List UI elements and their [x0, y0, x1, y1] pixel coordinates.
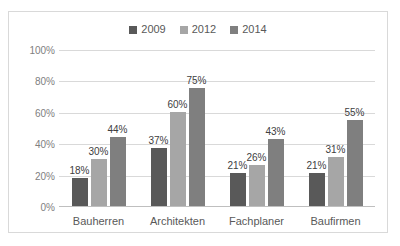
bar-architekten-2009[interactable] [151, 148, 167, 206]
chart-container: 200920122014 100%80%60%40%20%0% 18%30%44… [8, 11, 388, 233]
bar-slot: 44% [110, 50, 126, 206]
bar-bauherren-2012[interactable] [91, 159, 107, 206]
bar-group-baufirmen: 21%31%55% [296, 50, 375, 206]
bar-value-label: 43% [265, 127, 285, 137]
bar-groups: 18%30%44%37%60%75%21%26%43%21%31%55% [59, 50, 375, 206]
x-axis: BauherrenArchitektenFachplanerBaufirmen [59, 215, 375, 227]
y-axis-tick-label: 60% [35, 107, 55, 118]
y-axis: 100%80%60%40%20%0% [13, 50, 55, 207]
y-axis-tick-label: 40% [35, 139, 55, 150]
bar-value-label: 75% [186, 76, 206, 86]
bar-slot: 18% [72, 50, 88, 206]
bar-value-label: 30% [88, 147, 108, 157]
y-axis-tick-label: 100% [29, 45, 55, 56]
bar-value-label: 31% [325, 145, 345, 155]
chart-plot-wrapper: 100%80%60%40%20%0% 18%30%44%37%60%75%21%… [9, 12, 387, 232]
bar-slot: 75% [189, 50, 205, 206]
bar-bauherren-2009[interactable] [72, 178, 88, 206]
bar-value-label: 44% [107, 125, 127, 135]
plot-area: 18%30%44%37%60%75%21%26%43%21%31%55% [59, 50, 375, 207]
bar-baufirmen-2014[interactable] [347, 120, 363, 206]
x-axis-tick-fachplaner: Fachplaner [217, 215, 296, 227]
bar-fachplaner-2009[interactable] [230, 173, 246, 206]
bar-slot: 30% [91, 50, 107, 206]
bar-slot: 37% [151, 50, 167, 206]
x-axis-tick-baufirmen: Baufirmen [296, 215, 375, 227]
bar-slot: 31% [328, 50, 344, 206]
bar-slot: 26% [249, 50, 265, 206]
bar-value-label: 21% [306, 161, 326, 171]
bar-baufirmen-2009[interactable] [309, 173, 325, 206]
bar-baufirmen-2012[interactable] [328, 157, 344, 206]
axis-baseline [59, 206, 375, 207]
bar-slot: 21% [309, 50, 325, 206]
y-axis-tick-label: 0% [41, 202, 55, 213]
bar-value-label: 18% [69, 166, 89, 176]
bar-value-label: 55% [344, 108, 364, 118]
bar-group-architekten: 37%60%75% [138, 50, 217, 206]
bar-value-label: 60% [167, 100, 187, 110]
bar-group-fachplaner: 21%26%43% [217, 50, 296, 206]
bar-slot: 43% [268, 50, 284, 206]
bar-slot: 21% [230, 50, 246, 206]
bar-slot: 60% [170, 50, 186, 206]
bar-bauherren-2014[interactable] [110, 137, 126, 206]
x-axis-tick-bauherren: Bauherren [59, 215, 138, 227]
y-axis-tick-label: 80% [35, 76, 55, 87]
bar-architekten-2012[interactable] [170, 112, 186, 206]
bar-fachplaner-2014[interactable] [268, 139, 284, 207]
y-axis-tick-label: 20% [35, 170, 55, 181]
x-axis-tick-architekten: Architekten [138, 215, 217, 227]
bar-group-bauherren: 18%30%44% [59, 50, 138, 206]
bar-value-label: 37% [148, 136, 168, 146]
bar-fachplaner-2012[interactable] [249, 165, 265, 206]
bar-slot: 55% [347, 50, 363, 206]
bar-architekten-2014[interactable] [189, 88, 205, 206]
bar-value-label: 26% [246, 153, 266, 163]
bar-value-label: 21% [227, 161, 247, 171]
